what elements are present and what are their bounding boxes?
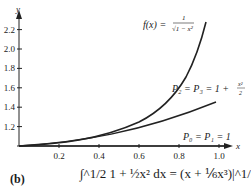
svg-text:0.6: 0.6 (133, 151, 145, 161)
bottom-formula-row: (b) ∫^1/2 1 + ½x² dx = (x + ⅙x³)|^1/2 (0, 170, 251, 189)
label-p0-p1: P₀ = P₁ = 1 (182, 131, 231, 142)
svg-text:1.2: 1.2 (4, 122, 15, 132)
svg-text:x²: x² (237, 81, 243, 87)
svg-text:f(x) =: f(x) = (143, 19, 166, 31)
svg-text:1.4: 1.4 (4, 102, 16, 112)
y-tick-labels: 1.2 1.4 1.6 1.8 2.0 2.2 (4, 25, 16, 132)
svg-text:√1 − x²: √1 − x² (172, 25, 194, 33)
svg-text:P₂ = P₃ = 1 +: P₂ = P₃ = 1 + (171, 83, 229, 94)
svg-text:1.0: 1.0 (213, 151, 225, 161)
svg-text:1.8: 1.8 (4, 63, 16, 73)
svg-text:0.8: 0.8 (173, 151, 185, 161)
label-p2-p3: P₂ = P₃ = 1 + x² 2 (171, 81, 245, 96)
svg-text:1: 1 (182, 14, 186, 22)
svg-text:2.2: 2.2 (4, 25, 15, 35)
x-tick-labels: 0.2 0.4 0.6 0.8 1.0 (53, 151, 225, 161)
svg-text:0.4: 0.4 (93, 151, 105, 161)
svg-text:1.6: 1.6 (4, 83, 16, 93)
svg-text:2: 2 (239, 90, 242, 96)
x-axis-label: x (235, 141, 240, 151)
chart: 1.2 1.4 1.6 1.8 2.0 2.2 y 0.2 0.4 0.6 0.… (0, 0, 251, 170)
integral-formula: ∫^1/2 1 + ½x² dx = (x + ⅙x³)|^1/2 (80, 166, 251, 182)
y-axis-label: y (15, 4, 20, 14)
part-label: (b) (10, 172, 25, 187)
svg-text:0.2: 0.2 (53, 151, 64, 161)
label-f: f(x) = 1 √1 − x² (143, 14, 194, 33)
svg-text:2.0: 2.0 (4, 44, 16, 54)
